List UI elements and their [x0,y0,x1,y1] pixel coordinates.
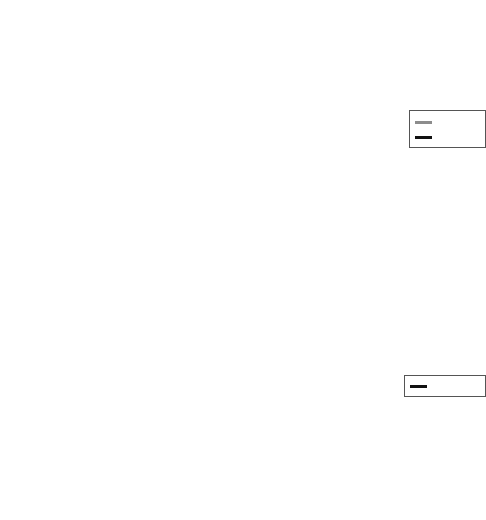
legend-item-surplus [410,379,481,394]
legend-swatch-surplus [410,385,427,389]
figure-caption [44,511,474,520]
legend-top [409,110,486,148]
legend-swatch-outlays [415,121,432,124]
legend-swatch-receipts [415,136,432,140]
figure-container [0,0,486,520]
legend-item-receipts [415,130,481,145]
legend-bottom [404,375,486,397]
legend-item-outlays [415,115,481,130]
